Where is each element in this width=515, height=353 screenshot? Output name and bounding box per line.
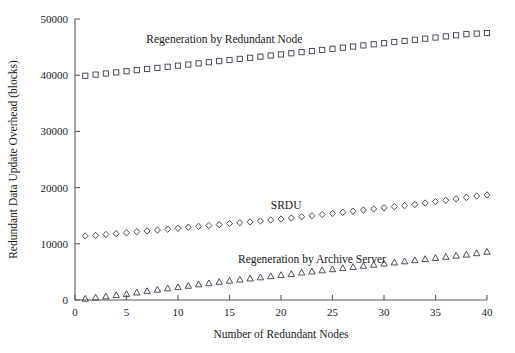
x-tick-label-15: 15 [224,306,236,318]
data-point-square [175,63,180,68]
data-point-triangle [206,280,212,286]
data-point-square [454,33,459,38]
x-tick-label-20: 20 [276,306,288,318]
series-label-diamond: SRDU [271,199,302,211]
data-point-diamond [227,220,233,226]
data-point-triangle [463,251,469,257]
data-point-diamond [247,219,253,225]
data-point-diamond [237,220,243,226]
data-point-diamond [124,230,130,236]
x-tick-label-30: 30 [379,306,391,318]
data-point-diamond [216,221,222,227]
data-point-square [484,30,489,35]
data-point-square [340,45,345,50]
data-point-diamond [340,209,346,215]
y-tick-label-10000: 10000 [41,238,69,250]
data-point-square [320,47,325,52]
data-point-diamond [412,201,418,207]
data-point-diamond [113,230,119,236]
data-point-diamond [422,200,428,206]
data-point-square [103,71,108,76]
data-point-square [278,52,283,57]
data-point-diamond [103,231,109,237]
data-point-square [124,69,129,74]
data-point-triangle [412,257,418,263]
x-tick-label-10: 10 [173,306,185,318]
data-point-triangle [144,288,150,294]
data-point-triangle [257,274,263,280]
data-point-diamond [299,214,305,220]
data-point-triangle [309,268,315,274]
data-point-triangle [453,252,459,258]
data-point-triangle [195,281,201,287]
x-tick-label-5: 5 [124,306,130,318]
data-point-square [464,32,469,37]
data-point-triangle [443,254,449,260]
data-point-diamond [206,222,212,228]
y-axis-title: Redundant Data Update Overhead (blocks) [7,60,20,259]
data-point-square [433,35,438,40]
data-point-diamond [309,213,315,219]
data-point-diamond [371,206,377,212]
data-point-diamond [402,202,408,208]
data-point-diamond [463,194,469,200]
data-point-triangle [113,292,119,298]
data-point-triangle [134,289,140,295]
data-point-triangle [288,271,294,277]
scatter-chart: 0510152025303540010000200003000040000500… [0,0,515,353]
data-point-diamond [360,207,366,213]
x-axis-title: Number of Redundant Nodes [213,328,349,340]
data-point-triangle [474,250,480,256]
data-point-diamond [484,192,490,198]
data-point-diamond [330,210,336,216]
data-point-diamond [196,223,202,229]
y-tick-label-50000: 50000 [41,13,69,25]
data-point-triangle [484,248,490,254]
data-point-triangle [422,256,428,262]
data-point-square [93,72,98,77]
data-point-square [258,54,263,59]
data-point-diamond [453,196,459,202]
data-point-square [289,51,294,56]
data-point-diamond [474,193,480,199]
data-point-triangle [226,277,232,283]
data-point-diamond [257,218,263,224]
x-tick-label-0: 0 [72,306,78,318]
data-point-square [371,42,376,47]
data-point-square [227,57,232,62]
series-label-triangle: Regeneration by Archive Server [238,253,386,266]
series-label-square: Regeneration by Redundant Node [146,33,302,46]
data-point-diamond [278,216,284,222]
data-point-square [361,43,366,48]
data-point-square [392,39,397,44]
data-point-triangle [391,259,397,265]
data-point-triangle [319,267,325,273]
data-point-square [309,48,314,53]
data-point-square [474,31,479,36]
data-point-square [217,59,222,64]
chart-figure: 0510152025303540010000200003000040000500… [0,0,515,353]
data-point-triangle [340,265,346,271]
data-point-square [83,73,88,78]
data-point-diamond [288,215,294,221]
data-point-diamond [350,208,356,214]
data-point-square [351,44,356,49]
y-tick-label-20000: 20000 [41,182,69,194]
data-point-diamond [268,217,274,223]
data-point-square [114,70,119,75]
data-point-diamond [443,197,449,203]
data-point-diamond [319,211,325,217]
data-point-square [402,38,407,43]
data-point-diamond [134,229,140,235]
data-point-diamond [165,226,171,232]
data-point-triangle [247,275,253,281]
data-point-square [186,62,191,67]
data-point-triangle [154,286,160,292]
data-point-square [423,36,428,41]
data-point-diamond [433,198,439,204]
data-point-triangle [401,258,407,264]
data-point-square [196,61,201,66]
data-point-triangle [103,293,109,299]
data-point-triangle [237,276,243,282]
data-point-triangle [329,266,335,272]
